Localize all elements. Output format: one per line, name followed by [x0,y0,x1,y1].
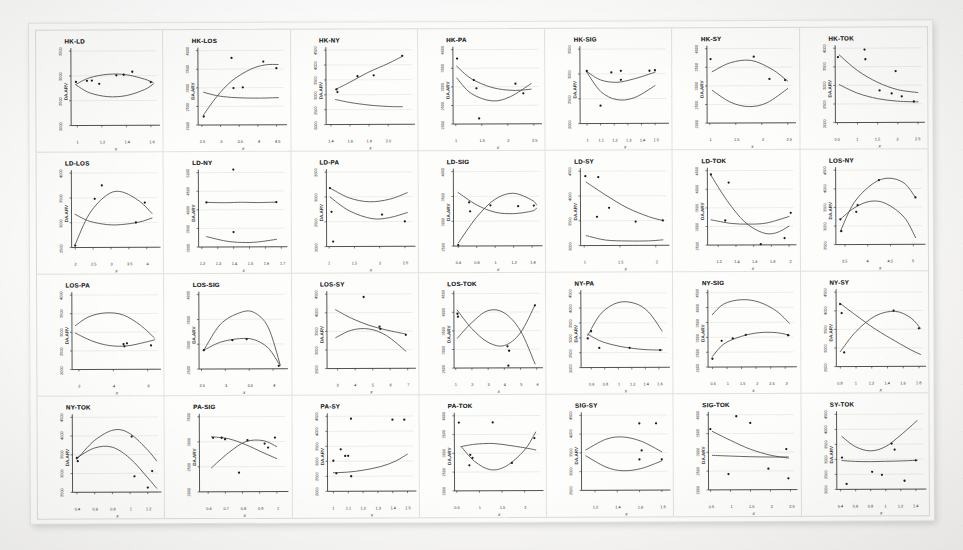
y-tick-label: 4500 [695,289,700,298]
data-point [662,219,664,221]
y-tick-label: 3000 [314,457,319,466]
chart-plot [164,152,291,273]
data-point [587,337,589,339]
panel-title: LOS-SIG [193,281,220,288]
panel-body [37,274,164,395]
data-point [232,339,234,341]
y-axis-label: DA.ARV [829,446,834,464]
data-point [489,204,491,206]
data-point [596,216,598,218]
chart-panel: HK-TOKDA.ARVx200025003000350040000.511.5… [800,27,928,149]
x-tick-label: 1.2 [512,260,517,265]
x-tick-label: 1.5 [479,138,484,143]
data-point [712,358,714,360]
panel-title: HK-NY [319,36,340,43]
x-tick-label: 1.2 [898,503,903,508]
x-axis-label: x [752,265,754,270]
y-axis-label: DA.ARV [828,201,833,219]
y-axis-label: DA.ARV [64,82,69,100]
y-axis-label: DA.ARV [573,80,578,98]
chart-panel: LD-LOSDA.ARVx250030003500400022.533.54 [37,152,165,274]
panel-title: LOS-TOK [447,280,477,287]
chart-panel: LOS-SIGDA.ARVx25003000350040002.533.54 [164,274,292,396]
panel-body [419,273,546,394]
data-point [534,304,536,306]
fitted-curve [75,333,154,347]
data-point [378,326,380,328]
y-tick-label: 3000 [440,218,445,227]
y-tick-label: 3000 [186,438,191,447]
y-tick-label: 3000 [568,467,573,476]
x-tick-label: 1 [855,381,857,386]
data-point [339,448,341,450]
y-tick-label: 2000 [313,243,318,252]
fitted-curve [840,178,915,231]
data-point [135,221,137,223]
fitted-curve [204,311,281,365]
data-point [231,57,233,59]
x-tick-label: 6 [536,382,538,387]
panel-body [292,395,419,517]
x-tick-label: 1 [856,137,858,142]
data-point [91,79,93,81]
panel-title: HK-LOS [192,37,217,44]
chart-panel: PA-TOKDA.ARVx200025003000350040000.511.5… [419,395,547,517]
data-point [590,330,592,332]
data-point [914,459,916,461]
x-tick-label: 1.7 [280,261,285,266]
y-tick-label: 4000 [440,168,445,177]
data-point [401,55,403,57]
data-point [379,328,381,330]
y-axis-label: DA.ARV [64,204,69,222]
y-tick-label: 3000 [58,72,63,81]
x-tick-label: 1.5 [248,261,253,266]
x-tick-label: 5 [912,258,914,263]
data-point [661,458,663,460]
y-axis-label: DA.ARV [446,203,451,221]
panel-title: NY-TOK [66,403,91,410]
panel-body [37,396,164,518]
x-axis-label: x [625,388,627,393]
fitted-curve [335,56,402,89]
y-tick-label: 3000 [822,344,827,353]
fitted-curve [75,191,152,244]
y-tick-label: 3500 [186,225,191,234]
data-point [710,173,712,175]
chart-plot [674,394,801,516]
data-point [839,218,841,220]
y-axis-label: DA.ARV [64,326,69,344]
data-point [514,83,516,85]
x-tick-label: 2 [78,384,80,389]
chart-plot [800,27,928,148]
x-tick-label: 0.4 [838,504,843,509]
fitted-curve [335,309,405,334]
data-point [655,422,657,424]
x-tick-label: 2.5 [789,504,794,509]
fitted-curve [588,302,663,336]
y-tick-label: 2000 [59,366,64,375]
y-tick-label: 5000 [185,169,190,178]
fitted-curve [457,305,535,346]
y-tick-label: 3500 [185,65,190,74]
y-tick-label: 3500 [695,204,700,213]
y-axis-label: DA.ARV [574,324,579,342]
data-point [839,303,841,305]
x-axis-label: x [624,144,626,149]
y-tick-label: 3500 [313,328,318,337]
y-tick-label: 4500 [568,411,573,420]
x-tick-label: 0.8 [837,381,842,386]
data-point [372,74,374,76]
data-point [584,175,586,177]
y-tick-label: 3000 [312,91,317,100]
data-point [900,95,902,97]
data-point [74,244,76,246]
y-tick-label: 3000 [441,449,446,458]
data-point [456,313,458,315]
data-point [837,56,839,58]
data-point [648,70,650,72]
x-tick-label: 1.5 [734,137,739,142]
y-tick-label: 2500 [823,470,828,479]
y-tick-label: 3500 [694,63,699,72]
y-tick-label: 4000 [567,192,572,201]
fitted-curve [713,299,790,323]
